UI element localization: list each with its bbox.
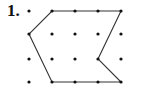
- grid-dot: [50, 32, 53, 35]
- grid-dot: [119, 32, 122, 35]
- grid-dot: [119, 9, 122, 12]
- polygon-shape: [29, 11, 121, 82]
- grid-dot: [73, 32, 76, 35]
- grid-dot: [27, 80, 30, 83]
- grid-dot: [50, 57, 53, 60]
- grid-dot: [96, 9, 99, 12]
- grid-dot: [73, 57, 76, 60]
- grid-dot: [50, 9, 53, 12]
- grid-dot: [27, 9, 30, 12]
- grid-dot: [73, 9, 76, 12]
- grid-dot: [96, 80, 99, 83]
- grid-dot: [119, 57, 122, 60]
- grid-dot: [50, 80, 53, 83]
- grid-dot: [96, 57, 99, 60]
- dot-grid: [27, 9, 122, 83]
- grid-dot: [119, 80, 122, 83]
- grid-dot: [73, 80, 76, 83]
- dot-grid-polygon-figure: [0, 0, 149, 94]
- grid-dot: [96, 32, 99, 35]
- grid-dot: [27, 57, 30, 60]
- grid-dot: [27, 32, 30, 35]
